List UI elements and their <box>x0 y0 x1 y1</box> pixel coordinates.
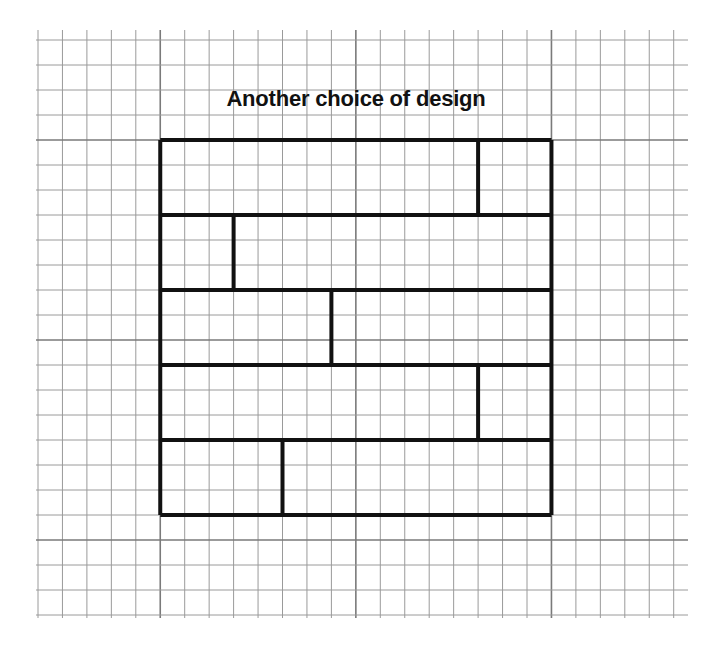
diagram-title: Another choice of design <box>160 86 552 112</box>
